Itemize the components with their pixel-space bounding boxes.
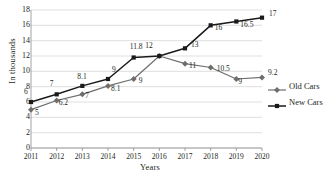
legend-item-old-cars[interactable]: Old Cars — [268, 78, 325, 94]
legend-item-new-cars[interactable]: New Cars — [268, 94, 325, 110]
data-point-marker — [274, 87, 280, 93]
chart-legend: Old CarsNew Cars — [268, 78, 325, 110]
x-axis-tick-label: 2020 — [247, 153, 277, 161]
x-axis-title: Years — [0, 162, 300, 172]
data-point-marker — [275, 104, 279, 108]
legend-diamond-marker-icon — [268, 81, 286, 91]
legend-square-marker-icon — [268, 97, 286, 107]
legend-item-label: New Cars — [289, 98, 323, 107]
line-chart: In thousands 024681012141618 56.278.1912… — [0, 0, 325, 177]
legend-item-label: Old Cars — [289, 82, 319, 91]
